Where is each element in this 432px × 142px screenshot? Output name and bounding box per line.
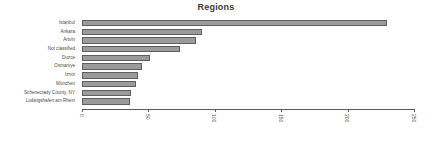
bar-row [82,80,414,89]
category-label: Duzce [0,54,78,63]
x-axis-tick-label: 200 [344,114,350,122]
x-axis-tick-label: 150 [278,114,284,122]
category-label: Istanbul [0,19,78,28]
bar [82,90,131,96]
bar [82,20,387,26]
x-axis-tick [414,109,415,112]
category-label: Izmir [0,71,78,80]
bar [82,55,150,61]
x-axis-tick [148,109,149,112]
category-axis-labels: IstanbulAnkaraArtvinNot classifiedDuzceO… [0,19,78,106]
x-axis-line [82,109,414,110]
bar [82,29,202,35]
bar [82,63,142,69]
category-label: Ankara [0,28,78,37]
bar [82,72,138,78]
bar-row [82,36,414,45]
bar-row [82,97,414,106]
bar [82,46,180,52]
bar [82,98,130,104]
chart-title: Regions [0,2,432,12]
x-axis-tick-label: 100 [211,114,217,122]
x-axis-tick [348,109,349,112]
x-axis-tick-label: 50 [145,114,151,120]
category-label: Not classified [0,45,78,54]
category-label: Artvin [0,36,78,45]
bar-row [82,54,414,63]
category-label: Osmaniye [0,62,78,71]
bar-chart: Regions IstanbulAnkaraArtvinNot classifi… [0,0,432,142]
bar [82,37,196,43]
bar [82,81,136,87]
category-label: Schenectady County, NY [0,89,78,98]
x-axis-tick [82,109,83,112]
category-label: Ludwigshafen am Rhein [0,97,78,106]
bar-row [82,71,414,80]
plot-area [82,19,414,106]
x-axis-tick-label: 0 [79,114,85,117]
bar-row [82,89,414,98]
bar-row [82,28,414,37]
bar-row [82,62,414,71]
bar-row [82,45,414,54]
x-axis-tick [281,109,282,112]
bar-row [82,19,414,28]
x-axis-tick [215,109,216,112]
category-label: München [0,80,78,89]
x-axis-tick-label: 250 [411,114,417,122]
